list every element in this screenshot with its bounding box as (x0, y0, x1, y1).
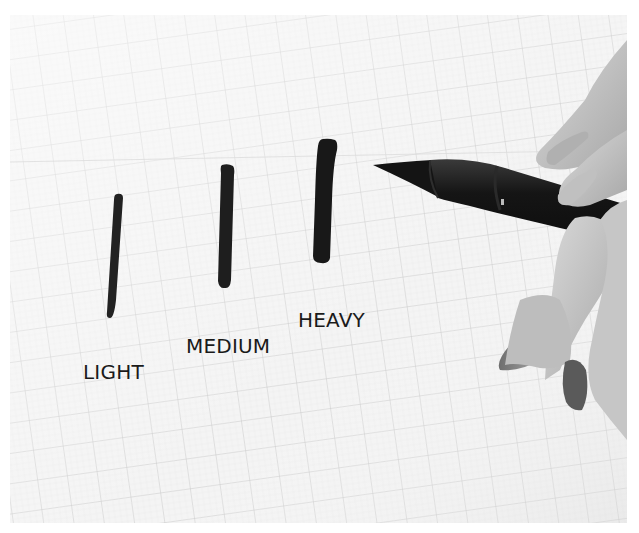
photo: LIGHT MEDIUM HEAVY (10, 15, 627, 523)
pen-highlight (501, 199, 504, 205)
label-light: LIGHT (83, 362, 144, 382)
label-heavy: HEAVY (298, 310, 365, 330)
paper-shading (10, 15, 627, 523)
scene-svg (10, 15, 627, 523)
label-medium: MEDIUM (186, 336, 270, 356)
